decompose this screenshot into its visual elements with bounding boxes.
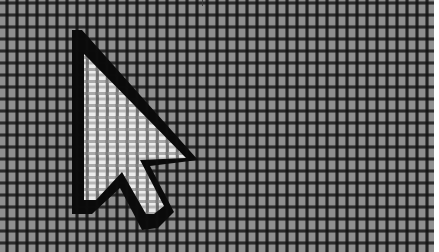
lcd-photo [0,0,434,252]
lcd-grid-overlay [0,0,434,252]
right-white-edge [434,0,439,252]
